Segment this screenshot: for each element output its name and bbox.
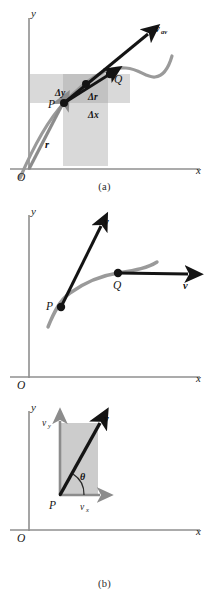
- vector-r-label: r: [45, 139, 50, 150]
- point-p-label: P: [45, 300, 53, 312]
- velocity-vector-at-p: [61, 226, 101, 307]
- velocity-y-subscript: y: [47, 422, 51, 429]
- panel-a-average-velocity: y x O P Q r v av Δy Δr Δx (a): [0, 0, 209, 200]
- velocity-label-at-q: v: [183, 280, 188, 291]
- point-q-marker: [114, 269, 122, 277]
- velocity-y-label: v: [42, 418, 47, 428]
- panel-a-caption: (a): [0, 181, 209, 192]
- y-axis-label: y: [30, 401, 36, 413]
- velocity-label-at-p: v: [104, 216, 109, 227]
- origin-label: O: [17, 532, 26, 544]
- trajectory-path: [48, 262, 157, 327]
- panel-b-instantaneous-velocity: y x O P Q v v (b): [0, 200, 209, 397]
- y-axis-label: y: [30, 205, 36, 217]
- theta-angle-label: θ: [80, 471, 86, 482]
- velocity-vector-at-q: [118, 273, 188, 274]
- position-vector-r: [29, 105, 62, 169]
- panel-c-diagram: y x O P v v y v x θ: [0, 397, 209, 600]
- velocity-vector-label: v: [104, 413, 109, 424]
- point-q-label: Q: [113, 279, 122, 291]
- point-p-label: P: [47, 98, 55, 110]
- x-axis-label: x: [195, 525, 201, 537]
- point-p-label: P: [48, 499, 56, 511]
- velocity-vectors-figure: y x O P Q r v av Δy Δr Δx (a): [0, 0, 209, 600]
- x-axis-label: x: [195, 164, 201, 176]
- panel-a-diagram: y x O P Q r v av Δy Δr Δx: [0, 0, 209, 200]
- midpoint-marker: [82, 80, 90, 88]
- velocity-x-subscript: x: [85, 506, 89, 513]
- vector-v-av-label: v: [155, 23, 160, 34]
- panel-c-velocity-components: y x O P v v y v x θ (c): [0, 397, 209, 600]
- y-axis-label: y: [30, 7, 36, 19]
- point-q-marker: [106, 70, 114, 78]
- x-axis-label: x: [195, 372, 201, 384]
- point-p-marker: [60, 99, 68, 107]
- delta-x-label: Δx: [87, 110, 99, 120]
- point-p-marker: [57, 303, 65, 311]
- point-p-marker: [59, 494, 61, 496]
- velocity-x-label: v: [80, 502, 85, 512]
- delta-y-label: Δy: [54, 88, 66, 98]
- point-q-label: Q: [114, 73, 123, 85]
- vector-v-av-subscript: av: [161, 28, 167, 35]
- origin-label: O: [17, 379, 26, 391]
- panel-b-diagram: y x O P Q v v: [0, 200, 209, 397]
- delta-r-label: Δr: [87, 92, 98, 102]
